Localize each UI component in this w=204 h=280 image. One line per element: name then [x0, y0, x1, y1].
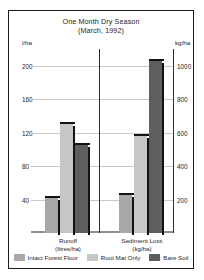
right-axis-unit: kg/ha — [175, 39, 190, 46]
legend-swatch — [87, 254, 98, 261]
bar-body — [45, 198, 58, 233]
bar — [75, 145, 88, 233]
legend-label: Intact Forest Floor — [28, 254, 78, 261]
right-axis-tick: 200 — [177, 196, 188, 203]
bar-body — [149, 61, 162, 233]
bar-cap — [75, 143, 90, 145]
bar-cap — [60, 122, 75, 124]
legend-item: Root Mat Only — [87, 254, 141, 261]
group-separator — [99, 49, 100, 233]
plot-area — [31, 49, 173, 233]
chart-title-line2: (March, 1992) — [9, 27, 193, 36]
bar — [60, 124, 73, 233]
legend-swatch — [149, 254, 160, 261]
chart-title: One Month Dry Season (March, 1992) — [9, 18, 193, 35]
left-axis-unit: l/ha — [22, 39, 32, 46]
legend-label: Bare Soil — [163, 254, 188, 261]
bar-cap — [119, 193, 134, 195]
left-axis-tick: 80 — [22, 163, 29, 170]
chart-frame: One Month Dry Season (March, 1992) l/ha … — [8, 10, 194, 269]
bar — [45, 198, 58, 233]
right-axis-tick: 400 — [177, 163, 188, 170]
bar-shadow — [162, 63, 164, 235]
bar-shadow — [88, 147, 90, 235]
left-axis-tick: 40 — [22, 196, 29, 203]
bar-cap — [45, 196, 60, 198]
plot-right-border — [173, 49, 174, 233]
legend-item: Bare Soil — [149, 254, 188, 261]
bar-body — [134, 136, 147, 233]
legend-label: Root Mat Only — [101, 254, 141, 261]
bar-body — [75, 145, 88, 233]
chart-legend: Intact Forest FloorRoot Mat OnlyBare Soi… — [9, 251, 193, 263]
bar-group — [111, 49, 173, 233]
bar-cap — [134, 134, 149, 136]
bar — [149, 61, 162, 233]
right-axis-tick: 600 — [177, 129, 188, 136]
legend-item: Intact Forest Floor — [14, 254, 78, 261]
bar — [119, 195, 132, 233]
right-axis-tick: 1000 — [177, 62, 191, 69]
bar-body — [119, 195, 132, 233]
category-name: Runoff — [37, 237, 99, 245]
category-name: Sediment Loss — [111, 237, 173, 245]
bar-body — [60, 124, 73, 233]
bar-group — [37, 49, 99, 233]
right-axis-tick: 800 — [177, 96, 188, 103]
legend-swatch — [14, 254, 25, 261]
bar-cap — [149, 59, 164, 61]
bar — [134, 136, 147, 233]
